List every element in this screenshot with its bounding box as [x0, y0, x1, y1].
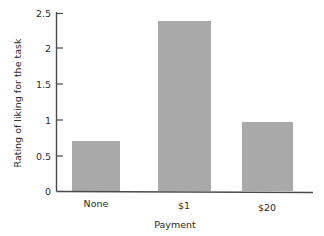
- x-axis-line: [57, 192, 314, 193]
- chart-canvas: 2.5 2 1.5 1 0.5 0 None $1 $20 Payment Ra…: [0, 0, 324, 236]
- bar-dollar-20: [242, 122, 293, 191]
- x-tick-label-none: None: [84, 198, 109, 209]
- y-axis-title: Rating of liking for the task: [12, 38, 23, 168]
- y-tick-label-1: 1: [45, 115, 51, 126]
- y-tick-label-1.5: 1.5: [36, 79, 51, 90]
- x-tick-label-dollar-1: $1: [178, 200, 190, 211]
- y-tick-label-0: 0: [45, 186, 51, 197]
- y-tick-label-2: 2: [45, 43, 51, 54]
- x-tick-label-dollar-20: $20: [258, 202, 276, 213]
- y-tick-label-0.5: 0.5: [36, 151, 51, 162]
- x-axis-title: Payment: [154, 219, 196, 230]
- bar-chart-figure: 2.5 2 1.5 1 0.5 0 None $1 $20 Payment Ra…: [0, 0, 324, 236]
- bar-dollar-1: [158, 21, 211, 191]
- y-tick-label-2.5: 2.5: [36, 8, 51, 19]
- bar-none: [72, 141, 120, 191]
